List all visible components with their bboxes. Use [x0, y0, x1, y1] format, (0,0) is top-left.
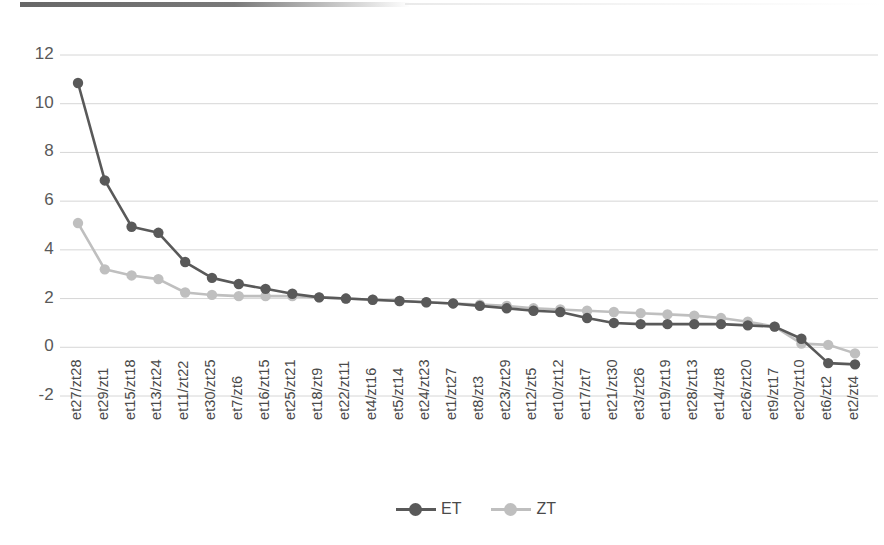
legend-label: ZT	[536, 500, 556, 518]
data-point[interactable]	[368, 295, 378, 305]
data-point[interactable]	[234, 279, 244, 289]
x-tick-label: et24/zt23	[416, 359, 432, 420]
x-tick-label: et3/zt26	[631, 368, 647, 420]
data-point[interactable]	[689, 319, 699, 329]
y-tick-label: 2	[14, 288, 54, 308]
y-tick-label: 10	[14, 93, 54, 113]
data-point[interactable]	[207, 273, 217, 283]
x-tick-label: et25/zt21	[282, 359, 298, 420]
x-tick-label: et18/zt9	[309, 368, 325, 420]
data-point[interactable]	[850, 348, 860, 358]
data-point[interactable]	[850, 359, 860, 369]
chart-gridlines	[60, 55, 878, 396]
x-tick-label: et8/zt3	[470, 376, 486, 420]
x-tick-label: et11/zt22	[175, 361, 191, 420]
x-tick-label: et1/zt27	[443, 368, 459, 420]
x-tick-label: et19/zt19	[657, 359, 673, 420]
legend-marker-icon	[504, 503, 517, 516]
x-tick-label: et20/zt10	[791, 359, 807, 420]
x-tick-label: et2/zt4	[845, 376, 861, 420]
data-point[interactable]	[609, 318, 619, 328]
series-line-zt	[78, 223, 855, 353]
data-point[interactable]	[260, 284, 270, 294]
legend-line-swatch	[491, 508, 531, 511]
legend-item-zt[interactable]: ZT	[491, 500, 556, 518]
x-tick-label: et26/zt20	[738, 359, 754, 420]
data-point[interactable]	[501, 303, 511, 313]
x-tick-label: et4/zt16	[363, 368, 379, 420]
data-point[interactable]	[73, 78, 83, 88]
data-point[interactable]	[635, 308, 645, 318]
x-tick-label: et5/zt14	[390, 368, 406, 420]
data-point[interactable]	[73, 218, 83, 228]
y-tick-label: 6	[14, 190, 54, 210]
data-point[interactable]	[100, 264, 110, 274]
data-point[interactable]	[100, 175, 110, 185]
data-point[interactable]	[126, 270, 136, 280]
chart-legend: ETZT	[396, 500, 578, 518]
data-point[interactable]	[528, 306, 538, 316]
legend-item-et[interactable]: ET	[396, 500, 461, 518]
y-tick-label: -2	[14, 385, 54, 405]
x-tick-label: et16/zt15	[256, 359, 272, 420]
data-point[interactable]	[555, 307, 565, 317]
data-point[interactable]	[341, 293, 351, 303]
data-point[interactable]	[609, 307, 619, 317]
y-tick-label: 12	[14, 44, 54, 64]
x-tick-label: et21/zt30	[604, 359, 620, 420]
y-tick-label: 0	[14, 336, 54, 356]
data-point[interactable]	[448, 298, 458, 308]
data-point[interactable]	[582, 313, 592, 323]
x-tick-label: et7/zt6	[229, 376, 245, 420]
x-tick-label: et23/zt29	[497, 359, 513, 420]
data-point[interactable]	[234, 291, 244, 301]
data-point[interactable]	[207, 290, 217, 300]
data-point[interactable]	[635, 319, 645, 329]
data-point[interactable]	[823, 340, 833, 350]
y-tick-label: 4	[14, 239, 54, 259]
x-tick-label: et28/zt13	[684, 359, 700, 420]
data-point[interactable]	[153, 228, 163, 238]
data-point[interactable]	[180, 287, 190, 297]
data-point[interactable]	[394, 296, 404, 306]
data-point[interactable]	[796, 334, 806, 344]
x-tick-label: et6/zt2	[818, 376, 834, 420]
y-tick-label: 8	[14, 141, 54, 161]
data-point[interactable]	[743, 320, 753, 330]
x-tick-label: et29/zt1	[95, 368, 111, 420]
data-point[interactable]	[716, 319, 726, 329]
x-tick-label: et22/zt11	[336, 361, 352, 420]
data-point[interactable]	[421, 297, 431, 307]
series-line-et	[78, 83, 855, 364]
x-tick-label: et15/zt18	[122, 359, 138, 420]
data-point[interactable]	[769, 321, 779, 331]
x-tick-label: et10/zt12	[550, 359, 566, 420]
legend-marker-icon	[409, 503, 422, 516]
data-point[interactable]	[662, 309, 672, 319]
x-tick-label: et30/zt25	[202, 359, 218, 420]
legend-label: ET	[441, 500, 461, 518]
data-point[interactable]	[823, 358, 833, 368]
legend-line-swatch	[396, 508, 436, 511]
chart-page: 121086420-2 et27/zt28et29/zt1et15/zt18et…	[0, 0, 884, 545]
data-point[interactable]	[662, 319, 672, 329]
x-tick-label: et13/zt24	[148, 359, 164, 420]
x-tick-label: et27/zt28	[68, 359, 84, 420]
data-point[interactable]	[153, 274, 163, 284]
data-point[interactable]	[126, 222, 136, 232]
line-chart	[0, 0, 884, 545]
x-tick-label: et12/zt5	[523, 368, 539, 420]
chart-series-layer	[73, 78, 860, 370]
data-point[interactable]	[180, 257, 190, 267]
data-point[interactable]	[314, 292, 324, 302]
x-tick-label: et14/zt8	[711, 368, 727, 420]
x-tick-label: et9/zt17	[765, 368, 781, 420]
data-point[interactable]	[475, 301, 485, 311]
x-tick-label: et17/zt7	[577, 368, 593, 420]
data-point[interactable]	[287, 289, 297, 299]
